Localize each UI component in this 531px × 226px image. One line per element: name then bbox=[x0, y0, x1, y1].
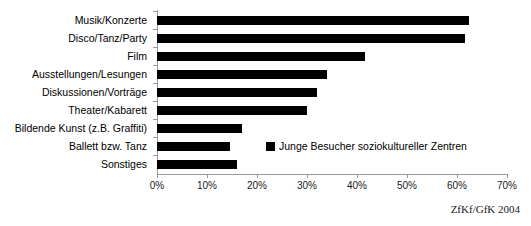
x-axis-tick bbox=[157, 174, 158, 178]
category-tick bbox=[153, 119, 157, 120]
bar-row bbox=[157, 155, 507, 173]
legend-swatch-icon bbox=[266, 142, 275, 151]
category-tick bbox=[153, 29, 157, 30]
category-tick bbox=[153, 101, 157, 102]
bar-row bbox=[157, 65, 507, 83]
category-label: Film bbox=[0, 47, 152, 65]
category-axis: Musik/KonzerteDisco/Tanz/PartyFilmAusste… bbox=[0, 11, 152, 173]
category-tick bbox=[153, 65, 157, 66]
bar-row bbox=[157, 83, 507, 101]
category-tick bbox=[153, 155, 157, 156]
bar-row bbox=[157, 119, 507, 137]
bar bbox=[157, 124, 242, 133]
bar bbox=[157, 88, 317, 97]
category-label: Bildende Kunst (z.B. Graffiti) bbox=[0, 119, 152, 137]
bar bbox=[157, 70, 327, 79]
bar bbox=[157, 16, 469, 25]
bar-row bbox=[157, 47, 507, 65]
category-label: Diskussionen/Vorträge bbox=[0, 83, 152, 101]
x-axis-tick bbox=[257, 174, 258, 178]
x-axis-tick bbox=[507, 174, 508, 178]
category-label: Theater/Kabarett bbox=[0, 101, 152, 119]
x-axis-tick-label: 30% bbox=[287, 180, 327, 191]
chart-legend: Junge Besucher soziokultureller Zentren bbox=[264, 139, 469, 153]
source-credit: ZfKf/GfK 2004 bbox=[451, 203, 520, 215]
plot-area: Musik/KonzerteDisco/Tanz/PartyFilmAusste… bbox=[0, 0, 531, 226]
x-axis-tick bbox=[307, 174, 308, 178]
category-label: Musik/Konzerte bbox=[0, 11, 152, 29]
x-axis-tick-label: 0% bbox=[137, 180, 177, 191]
category-label: Ausstellungen/Lesungen bbox=[0, 65, 152, 83]
x-axis-tick-label: 70% bbox=[487, 180, 527, 191]
bar bbox=[157, 106, 307, 115]
bar-row bbox=[157, 11, 507, 29]
category-label: Sonstiges bbox=[0, 155, 152, 173]
x-axis-tick-label: 50% bbox=[387, 180, 427, 191]
category-tick bbox=[153, 11, 157, 12]
x-axis-tick bbox=[407, 174, 408, 178]
category-tick bbox=[153, 83, 157, 84]
bar-row bbox=[157, 29, 507, 47]
category-label: Disco/Tanz/Party bbox=[0, 29, 152, 47]
category-label: Ballett bzw. Tanz bbox=[0, 137, 152, 155]
x-axis-tick bbox=[457, 174, 458, 178]
x-axis-tick-label: 10% bbox=[187, 180, 227, 191]
category-tick bbox=[153, 47, 157, 48]
value-axis-baseline bbox=[157, 174, 507, 175]
x-axis-tick bbox=[357, 174, 358, 178]
bar-row bbox=[157, 101, 507, 119]
x-axis-tick-label: 20% bbox=[237, 180, 277, 191]
x-axis-tick-label: 40% bbox=[337, 180, 377, 191]
category-tick bbox=[153, 137, 157, 138]
bar bbox=[157, 52, 365, 61]
bar bbox=[157, 34, 465, 43]
x-axis-tick bbox=[207, 174, 208, 178]
bar bbox=[157, 142, 230, 151]
bar-chart-figure: Junge Besucher haben Musik/KonzerteDisco… bbox=[0, 0, 531, 226]
bar bbox=[157, 160, 237, 169]
legend-label: Junge Besucher soziokultureller Zentren bbox=[279, 140, 467, 152]
x-axis-tick-label: 60% bbox=[437, 180, 477, 191]
